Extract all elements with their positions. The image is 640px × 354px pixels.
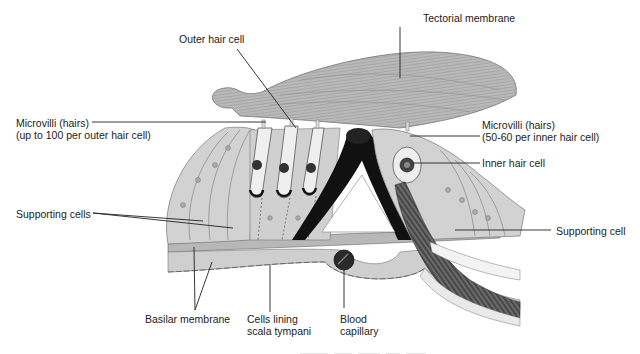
label-microvilli-inner-line2: (50-60 per inner hair cell) <box>482 131 599 143</box>
inner-hair-cell <box>393 147 421 183</box>
label-cells-lining-scala-tympani: Cells lining scala tympani <box>247 313 311 337</box>
label-cells-lining-line1: Cells lining <box>247 313 311 325</box>
label-inner-hair-cell: Inner hair cell <box>482 157 545 169</box>
label-basilar-membrane: Basilar membrane <box>145 313 230 325</box>
label-microvilli-inner-line1: Microvilli (hairs) <box>482 119 599 131</box>
label-microvilli-outer-line1: Microvilli (hairs) <box>16 117 151 129</box>
label-blood-capillary-line2: capillary <box>340 325 379 337</box>
label-cells-lining-line2: scala tympani <box>247 325 311 337</box>
label-outer-hair-cell: Outer hair cell <box>179 33 244 45</box>
label-supporting-cell: Supporting cell <box>556 225 625 237</box>
label-microvilli-outer: Microvilli (hairs) (up to 100 per outer … <box>16 117 151 141</box>
faint-caption-remnant <box>300 344 440 350</box>
label-blood-capillary-line1: Blood <box>340 313 379 325</box>
outer-hair-cells <box>250 118 340 240</box>
label-supporting-cells: Supporting cells <box>16 208 91 220</box>
label-microvilli-inner: Microvilli (hairs) (50-60 per inner hair… <box>482 119 599 143</box>
label-tectorial-membrane: Tectorial membrane <box>423 12 515 24</box>
blood-capillary <box>334 250 354 270</box>
organ-of-corti-illustration <box>0 0 640 354</box>
supporting-cells-left <box>167 127 255 244</box>
label-microvilli-outer-line2: (up to 100 per outer hair cell) <box>16 129 151 141</box>
label-blood-capillary: Blood capillary <box>340 313 379 337</box>
tectorial-membrane <box>212 52 516 128</box>
